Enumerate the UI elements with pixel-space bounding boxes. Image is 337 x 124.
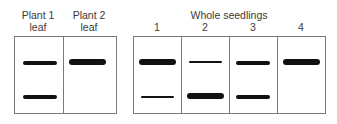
lane-divider bbox=[181, 37, 182, 113]
group-title-whole-seedlings: Whole seedlings bbox=[133, 9, 325, 21]
band-seedling3-upper bbox=[236, 61, 270, 65]
lane-divider bbox=[63, 37, 64, 113]
lane-label-seedling2: 2 bbox=[181, 21, 229, 33]
lane-label-plant2-line2: leaf bbox=[62, 21, 116, 33]
band-seedling3-lower bbox=[236, 95, 270, 99]
band-seedling1-lower bbox=[141, 96, 174, 98]
band-plant2-upper bbox=[69, 59, 106, 65]
lane-label-seedling1: 1 bbox=[133, 21, 181, 33]
lane-label-plant2-line1: Plant 2 bbox=[62, 9, 116, 21]
band-plant1-upper bbox=[23, 61, 57, 65]
lane-label-plant1: Plant 1 leaf bbox=[14, 9, 62, 33]
lane-divider bbox=[229, 37, 230, 113]
band-seedling2-lower bbox=[187, 93, 224, 99]
lane-label-plant1-line2: leaf bbox=[14, 21, 62, 33]
band-seedling4-upper bbox=[283, 59, 320, 65]
lane-label-seedling4: 4 bbox=[277, 21, 325, 33]
gel-leaf-samples bbox=[14, 36, 117, 114]
lane-label-plant2: Plant 2 leaf bbox=[62, 9, 116, 33]
gel-whole-seedlings bbox=[133, 36, 326, 114]
lane-divider bbox=[277, 37, 278, 113]
band-seedling1-upper bbox=[139, 59, 176, 65]
lane-label-seedling3: 3 bbox=[229, 21, 277, 33]
band-plant1-lower bbox=[23, 95, 57, 99]
lane-label-plant1-line1: Plant 1 bbox=[14, 9, 62, 21]
band-seedling2-upper bbox=[189, 61, 222, 63]
